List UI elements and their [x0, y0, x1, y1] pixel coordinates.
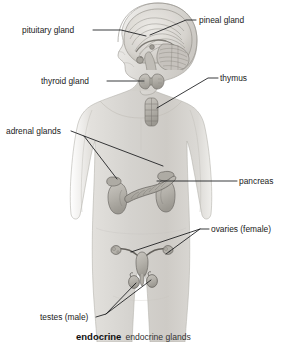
label-pancreas: pancreas — [239, 176, 273, 186]
pineal-gland-organ — [150, 45, 155, 50]
label-thymus: thymus — [220, 73, 247, 83]
left-testis — [129, 276, 140, 289]
label-thyroid-gland: thyroid gland — [41, 76, 89, 86]
label-testes-male: testes (male) — [40, 312, 89, 322]
cervix-vagina — [140, 274, 144, 286]
left-kidney — [108, 183, 127, 214]
left-ovary — [111, 246, 121, 255]
thymus-organ — [145, 98, 158, 126]
left-adrenal-gland — [107, 177, 121, 186]
endocrine-glands-figure: pituitary glandpineal glandthyroid gland… — [0, 0, 283, 342]
pituitary-gland-organ — [137, 57, 144, 64]
anatomy-illustration: pituitary glandpineal glandthyroid gland… — [0, 0, 283, 342]
caption-term: endocrine — [76, 331, 121, 342]
right-testis — [147, 275, 158, 288]
label-ovaries-female: ovaries (female) — [211, 224, 271, 234]
label-pineal-gland: pineal gland — [199, 15, 245, 25]
torso-shape — [70, 72, 212, 342]
label-pituitary-gland: pituitary gland — [22, 25, 74, 35]
caption-definition: endocrine glands — [125, 332, 190, 342]
figure-caption: endocrine endocrine glands — [76, 331, 191, 342]
label-adrenal-glands: adrenal glands — [6, 126, 61, 136]
body-silhouette — [70, 72, 212, 342]
